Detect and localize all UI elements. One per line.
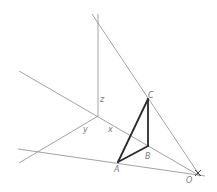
label-b: B xyxy=(145,152,151,161)
label-y: y xyxy=(82,125,88,134)
label-o: O xyxy=(186,176,192,185)
label-c: C xyxy=(148,91,154,100)
label-z: z xyxy=(99,95,105,104)
label-a: A xyxy=(113,165,119,174)
y-axis xyxy=(19,116,98,163)
x-axis-line xyxy=(19,71,200,176)
segment-ac xyxy=(118,99,148,162)
label-x: x xyxy=(107,125,113,134)
geometry-diagram: z y x C B A O xyxy=(0,0,217,192)
